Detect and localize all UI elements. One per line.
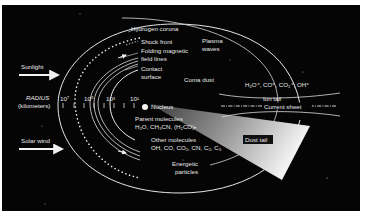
label-solar-wind: Solar wind — [21, 137, 50, 144]
field-line-2 — [94, 61, 140, 156]
tick-label-1e3: 10³ — [106, 95, 115, 102]
tick-label-1e1: 10¹ — [130, 95, 139, 102]
label-shock-front: Shock front — [141, 38, 173, 45]
comet-diagram: Hydrogen corona Shock front Folding magn… — [0, 0, 368, 221]
leader-shock — [126, 41, 138, 45]
label-contact-surface-2: surface — [141, 73, 162, 80]
label-energetic-particles-2: particles — [175, 168, 198, 175]
label-folding-field-1: Folding magnetic — [141, 47, 188, 54]
label-parent-molecules: Parent molecules — [135, 115, 183, 122]
label-nucleus: Nucleus — [151, 103, 173, 110]
label-sunlight: Sunlight — [21, 63, 44, 70]
label-plasma-waves-1: Plasma — [202, 37, 223, 44]
label-coma-dust: Coma dust — [184, 76, 214, 83]
tick-label-1e7: 10⁷ — [60, 95, 69, 102]
ion-tail-lower — [222, 112, 340, 117]
label-current-sheet: Current sheet — [264, 103, 302, 110]
field-line-1 — [90, 58, 140, 160]
label-folding-field-2: field lines — [141, 55, 167, 62]
label-dust-tail: Dust tail — [245, 136, 267, 143]
label-plasma-waves-2: waves — [201, 45, 220, 52]
label-other-molecules: Other molecules — [151, 136, 196, 143]
shock-front-line — [75, 38, 140, 178]
label-radius: RADIUS — [26, 94, 50, 101]
label-contact-surface-1: Contact — [141, 65, 163, 72]
label-other-molecules-list: OH, CO, CO₂, CN, C₂, C₃ — [151, 144, 222, 151]
tick-label-1e5: 10⁵ — [84, 95, 94, 102]
label-parent-molecules-list: H₂O, CH₃CN, (H₂CO)ₙ — [135, 123, 197, 130]
leader-field — [120, 53, 138, 58]
nucleus-dot — [142, 104, 148, 110]
label-ions: H₂O⁺, CO⁺, CO₂⁺, OH⁺ — [245, 81, 309, 88]
field-arrow-bottom — [118, 151, 126, 153]
label-hydrogen-corona: Hydrogen corona — [131, 25, 179, 32]
label-ion-tail: Ion tail — [263, 95, 281, 102]
label-kilometers: (kilometers) — [18, 102, 50, 109]
label-energetic-particles-1: Energetic — [172, 160, 198, 167]
